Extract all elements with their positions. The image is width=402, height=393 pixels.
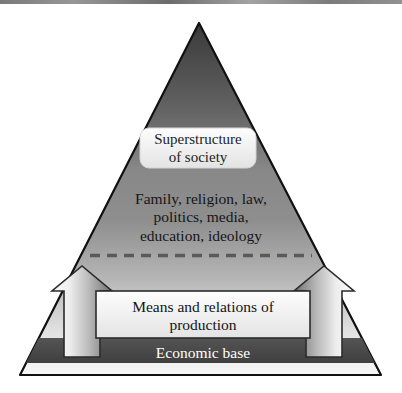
institutions-line-3: education, ideology [100, 227, 302, 245]
institutions-label: Family, religion, law, politics, media, … [100, 190, 302, 245]
means-line-2: production [100, 316, 306, 334]
superstructure-line-1: Superstructure [140, 131, 256, 149]
economic-base-label: Economic base [100, 344, 306, 362]
institutions-line-1: Family, religion, law, [100, 190, 302, 208]
superstructure-line-2: of society [140, 149, 256, 167]
superstructure-label: Superstructure of society [140, 131, 256, 166]
institutions-line-2: politics, media, [100, 208, 302, 226]
means-line-1: Means and relations of [100, 298, 306, 316]
diagram-canvas: Superstructure of society Family, religi… [0, 0, 402, 393]
means-of-production-label: Means and relations of production [100, 298, 306, 335]
economic-base-line-1: Economic base [100, 344, 306, 362]
